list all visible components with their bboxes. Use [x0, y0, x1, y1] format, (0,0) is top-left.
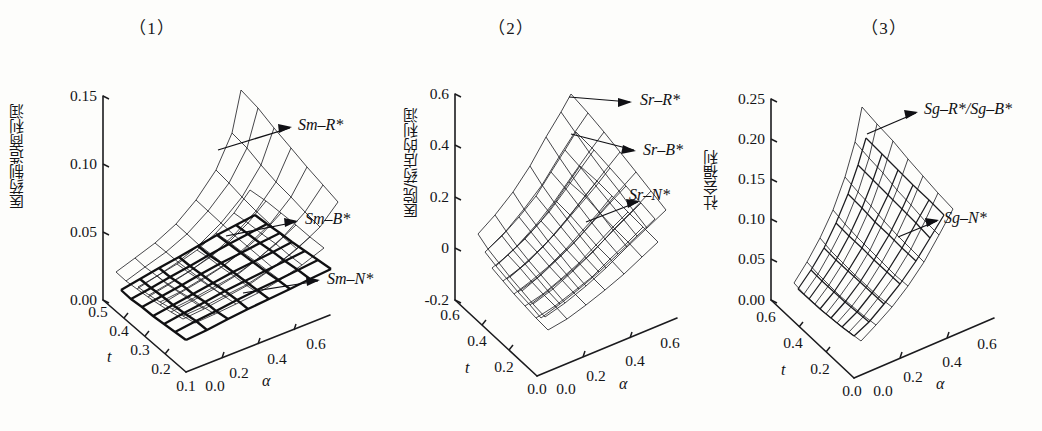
figure-3d-surface-panels: （1） 医药制造商利润 0.15 0.10 0.05 0.00 — [0, 0, 1042, 431]
panel-3-ztick-3: 0.15 — [738, 170, 765, 187]
panel-3-atick-1: 0.2 — [903, 368, 922, 385]
panel-3-a-axis-name: α — [936, 375, 945, 392]
panel-2-a-axis-name: α — [619, 375, 628, 392]
panel-3: （3） 0.25 0.20 0.15 0.10 0.05 0.00 — [694, 0, 1042, 431]
panel-1-atick-2: 0.4 — [267, 350, 287, 367]
panel-3-z-axis — [771, 99, 777, 303]
panel-2-ttick-1: 0.2 — [494, 358, 513, 375]
panel-1-ztick-1: 0.05 — [70, 223, 97, 240]
panel-2-ztick-2: 0.2 — [430, 188, 449, 205]
panel-2-ztick-1: 0 — [441, 239, 449, 256]
panel-1-ttick-4: 0.5 — [88, 303, 108, 320]
panel-1-ttick-1: 0.2 — [151, 360, 170, 377]
panel-3-y-axis-label: 社会福利 — [700, 150, 721, 210]
panel-2-surface-sr-r — [478, 94, 666, 317]
panel-3-series-label-sg-n: Sg–N* — [944, 209, 987, 227]
panel-2-series-label-sr-r: Sr–R* — [640, 91, 680, 108]
panel-1-atick-1: 0.2 — [229, 364, 248, 381]
panel-1-ztick-3: 0.15 — [70, 87, 97, 104]
panel-3-atick-0: 0.0 — [873, 382, 893, 399]
panel-2-atick-3: 0.6 — [660, 334, 680, 351]
panel-3-surface-sg-n — [798, 138, 944, 336]
panel-2-ztick-3: 0.4 — [430, 136, 450, 153]
panel-1-plot: 0.15 0.10 0.05 0.00 0.5 0.4 0.3 0.2 0.1 … — [0, 0, 348, 431]
panel-3-ztick-1: 0.05 — [738, 250, 765, 267]
panel-3-ztick-4: 0.20 — [738, 130, 765, 147]
panel-2-plot: 0.6 0.4 0.2 0 -0.2 0.6 0.4 0.2 0.0 t 0.0… — [347, 0, 695, 431]
panel-1-ttick-0: 0.1 — [176, 377, 195, 394]
panel-1-series-label-sm-b: Sm–B* — [305, 210, 350, 227]
panel-1-atick-3: 0.6 — [306, 335, 326, 352]
panel-2-atick-0: 0.0 — [556, 380, 576, 397]
panel-1-z-axis — [103, 96, 109, 303]
panel-3-ztick-5: 0.25 — [738, 90, 765, 107]
panel-1-ttick-2: 0.3 — [130, 341, 150, 358]
panel-2-annotation-sr-b — [571, 134, 636, 154]
panel-2-ttick-0: 0.0 — [527, 380, 547, 397]
panel-3-ttick-0: 0.0 — [842, 382, 862, 399]
panel-1-ttick-3: 0.4 — [109, 322, 129, 339]
panel-1-ztick-2: 0.10 — [70, 155, 97, 172]
panel-1-series-label-sm-r: Sm–R* — [298, 116, 343, 133]
panel-2-atick-1: 0.2 — [586, 367, 605, 384]
panel-1-a-axis-name: α — [262, 372, 271, 389]
panel-1-t-axis-name: t — [107, 348, 112, 365]
panel-3-ttick-2: 0.4 — [783, 334, 803, 351]
panel-2-ttick-3: 0.6 — [440, 306, 460, 323]
panel-3-atick-3: 0.6 — [977, 335, 997, 352]
panel-1: （1） 医药制造商利润 0.15 0.10 0.05 0.00 — [0, 0, 348, 431]
panel-1-atick-0: 0.0 — [205, 377, 225, 394]
panel-2-series-label-sr-n: Sr–N* — [629, 186, 670, 203]
panel-1-surface-sm-n — [121, 215, 331, 340]
panel-2-ztick-4: 0.6 — [430, 85, 450, 102]
panel-2-ttick-2: 0.4 — [467, 332, 487, 349]
panel-2-z-axis — [455, 94, 461, 303]
panel-3-plot: 0.25 0.20 0.15 0.10 0.05 0.00 0.6 0.4 0.… — [694, 0, 1042, 431]
panel-3-series-label-sg-rb: Sg–R*/Sg–B* — [924, 100, 1012, 118]
panel-3-ztick-2: 0.10 — [738, 210, 765, 227]
panel-1-annotation-sm-r — [218, 124, 292, 150]
panel-3-annotation-sg-rb — [867, 110, 918, 134]
panel-3-ttick-3: 0.6 — [756, 308, 776, 325]
panel-2: （2） 医院/药店的利润 0.6 0.4 0.2 0 -0.2 — [347, 0, 695, 431]
panel-3-atick-2: 0.4 — [942, 353, 962, 370]
panel-2-t-axis-name: t — [465, 359, 470, 376]
panel-3-t-axis-name: t — [781, 361, 786, 378]
panel-3-ttick-1: 0.2 — [810, 360, 829, 377]
panel-2-atick-2: 0.4 — [625, 352, 645, 369]
panel-2-series-label-sr-b: Sr–B* — [643, 141, 683, 158]
panel-3-ztick-0: 0.00 — [738, 291, 765, 308]
